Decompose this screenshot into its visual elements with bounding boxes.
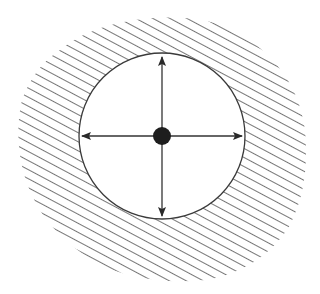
diagram-canvas [0, 0, 320, 294]
center-point [153, 127, 171, 145]
